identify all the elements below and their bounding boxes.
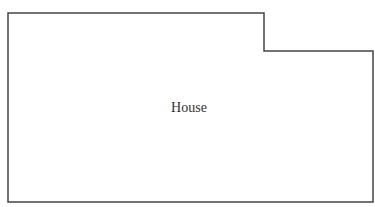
house-label: House [171,100,207,116]
